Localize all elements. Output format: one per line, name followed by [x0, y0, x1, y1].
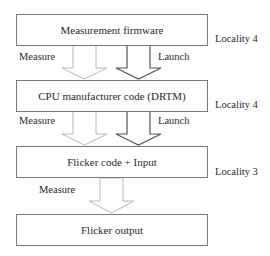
locality-label-1: Locality 4: [215, 33, 258, 44]
locality-label-2: Locality 4: [215, 99, 258, 110]
launch-arrow-2: [116, 111, 161, 145]
launch-label-1: Launch: [158, 51, 190, 62]
measure-arrow-2: [62, 111, 107, 145]
box-measurement-firmware: Measurement firmware: [16, 14, 208, 46]
box-flicker-code-input: Flicker code + Input: [16, 146, 208, 178]
measure-label-3: Measure: [39, 184, 75, 195]
box-label: Flicker code + Input: [67, 156, 157, 168]
box-flicker-output: Flicker output: [16, 214, 208, 246]
measure-arrow-1: [62, 45, 107, 79]
box-label: CPU manufacturer code (DRTM): [38, 90, 186, 102]
box-cpu-manufacturer-code: CPU manufacturer code (DRTM): [16, 80, 208, 112]
launch-arrow-1: [116, 45, 161, 79]
launch-label-2: Launch: [158, 115, 190, 126]
box-label: Flicker output: [81, 224, 143, 236]
measure-arrow-3: [89, 178, 134, 213]
locality-label-3: Locality 3: [215, 166, 258, 177]
measure-label-2: Measure: [19, 115, 55, 126]
box-label: Measurement firmware: [61, 24, 164, 36]
measure-label-1: Measure: [19, 51, 55, 62]
